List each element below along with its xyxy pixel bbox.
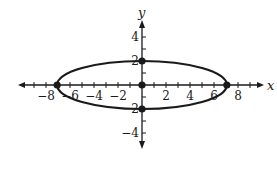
data-point xyxy=(138,81,145,88)
x-tick-label: 4 xyxy=(186,89,194,103)
data-point xyxy=(138,57,145,64)
x-tick-label: −2 xyxy=(109,89,127,103)
y-axis-up-arrow-icon xyxy=(139,20,145,28)
x-tick-label: 2 xyxy=(162,89,170,103)
x-tick-label: −8 xyxy=(37,89,55,103)
x-tick-label: 6 xyxy=(210,89,218,103)
x-axis-right-arrow-icon xyxy=(257,82,264,88)
y-tick-label: 4 xyxy=(131,30,139,44)
x-tick-label: −6 xyxy=(61,89,79,103)
data-point xyxy=(223,81,230,88)
ellipse-graph: −8−6−4−22468422−4 x y xyxy=(0,0,277,187)
x-axis-left-arrow-icon xyxy=(18,82,25,88)
data-point xyxy=(54,81,61,88)
y-tick-label: 2 xyxy=(131,102,139,116)
x-tick-label: −4 xyxy=(85,89,103,103)
x-tick-label: 8 xyxy=(234,89,242,103)
y-tick-label: 2 xyxy=(131,54,139,68)
data-point xyxy=(138,105,145,112)
y-axis-down-arrow-icon xyxy=(139,141,145,149)
y-axis-label: y xyxy=(137,5,146,20)
y-tick-label: −4 xyxy=(121,126,139,140)
x-axis-label: x xyxy=(267,78,275,93)
